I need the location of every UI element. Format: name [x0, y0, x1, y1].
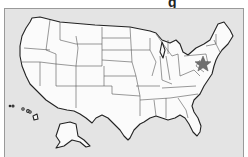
hawaii-island [22, 108, 24, 110]
hawaii-island [33, 114, 38, 120]
hawaii-island [9, 105, 11, 107]
us-map [0, 0, 248, 157]
alaska-outline [56, 122, 90, 148]
hawaii-island [12, 105, 14, 107]
contiguous-us-outline [20, 17, 233, 140]
hawaii-island [29, 111, 31, 113]
hawaii-islands [9, 105, 38, 120]
